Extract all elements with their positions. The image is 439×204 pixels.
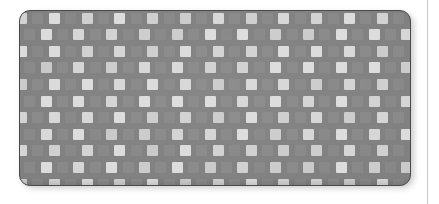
pattern-square xyxy=(131,13,142,24)
pattern-square xyxy=(19,179,27,186)
pattern-square xyxy=(221,162,232,173)
pattern-square xyxy=(65,46,76,57)
pattern-square xyxy=(65,179,76,186)
pattern-square xyxy=(237,29,248,40)
pattern-square xyxy=(65,13,76,24)
pattern-square xyxy=(278,145,289,156)
pattern-square xyxy=(262,79,273,90)
pattern-square xyxy=(246,112,257,123)
pattern-square xyxy=(188,162,199,173)
pattern-square xyxy=(180,13,191,24)
pattern-square xyxy=(270,62,281,73)
pattern-square xyxy=(123,129,134,140)
pattern-square xyxy=(336,129,347,140)
pattern-square xyxy=(410,13,412,24)
pattern-square xyxy=(262,13,273,24)
pattern-square xyxy=(213,112,224,123)
pattern-square xyxy=(401,96,411,107)
pattern-square xyxy=(336,162,347,173)
pattern-square xyxy=(270,29,281,40)
pattern-square xyxy=(377,79,388,90)
pattern-square xyxy=(287,62,298,73)
pattern-square xyxy=(262,145,273,156)
patterned-mat xyxy=(19,10,411,186)
pattern-square xyxy=(385,62,396,73)
pattern-square xyxy=(237,162,248,173)
pattern-square xyxy=(369,162,380,173)
pattern-square xyxy=(369,96,380,107)
pattern-square xyxy=(360,112,371,123)
pattern-square xyxy=(73,96,84,107)
pattern-square xyxy=(295,145,306,156)
pattern-square xyxy=(336,62,347,73)
pattern-square xyxy=(106,96,117,107)
pattern-square xyxy=(270,162,281,173)
pattern-square xyxy=(352,162,363,173)
pattern-square xyxy=(393,46,404,57)
pattern-square xyxy=(41,129,52,140)
pattern-square xyxy=(49,13,60,24)
pattern-square xyxy=(131,145,142,156)
pattern-square xyxy=(246,145,257,156)
pattern-square xyxy=(344,46,355,57)
pattern-square xyxy=(262,46,273,57)
pattern-square xyxy=(155,129,166,140)
pattern-square xyxy=(311,13,322,24)
pattern-square xyxy=(180,179,191,186)
pattern-square xyxy=(369,62,380,73)
pattern-square xyxy=(213,79,224,90)
pattern-square xyxy=(303,162,314,173)
pattern-square xyxy=(270,129,281,140)
pattern-square xyxy=(205,62,216,73)
pattern-square xyxy=(377,46,388,57)
pattern-square xyxy=(90,29,101,40)
pattern-square xyxy=(229,179,240,186)
pattern-square xyxy=(57,129,68,140)
pattern-square xyxy=(352,96,363,107)
pattern-square xyxy=(401,162,411,173)
pattern-square xyxy=(328,112,339,123)
pattern-square xyxy=(139,96,150,107)
pattern-square xyxy=(147,79,158,90)
pattern-square xyxy=(254,29,265,40)
mat-square-pattern xyxy=(20,11,410,185)
pattern-square xyxy=(155,62,166,73)
pattern-square xyxy=(229,46,240,57)
pattern-square xyxy=(73,162,84,173)
pattern-square xyxy=(246,13,257,24)
pattern-square xyxy=(221,29,232,40)
pattern-square xyxy=(410,79,412,90)
pattern-square xyxy=(213,179,224,186)
pattern-square xyxy=(90,162,101,173)
pattern-square xyxy=(41,96,52,107)
pattern-square xyxy=(73,29,84,40)
pattern-square xyxy=(172,162,183,173)
pattern-square xyxy=(319,162,330,173)
pattern-square xyxy=(303,129,314,140)
pattern-square xyxy=(410,112,412,123)
pattern-square xyxy=(188,62,199,73)
pattern-square xyxy=(57,62,68,73)
pattern-square xyxy=(164,179,175,186)
pattern-square xyxy=(278,46,289,57)
pattern-square xyxy=(385,129,396,140)
pattern-square xyxy=(114,179,125,186)
pattern-square xyxy=(180,145,191,156)
pattern-square xyxy=(123,62,134,73)
pattern-square xyxy=(19,112,27,123)
pattern-square xyxy=(246,46,257,57)
pattern-square xyxy=(401,62,411,73)
pattern-square xyxy=(114,145,125,156)
pattern-square xyxy=(221,96,232,107)
pattern-square xyxy=(65,79,76,90)
pattern-square xyxy=(213,46,224,57)
pattern-square xyxy=(196,79,207,90)
pattern-square xyxy=(360,79,371,90)
pattern-square xyxy=(303,29,314,40)
pattern-square xyxy=(237,129,248,140)
pattern-square xyxy=(213,145,224,156)
pattern-square xyxy=(73,129,84,140)
pattern-square xyxy=(57,162,68,173)
pattern-square xyxy=(344,13,355,24)
pattern-square xyxy=(377,13,388,24)
